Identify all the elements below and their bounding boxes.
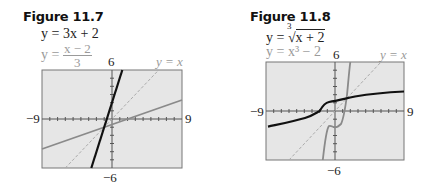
plot-figure-11-8 [0, 0, 434, 192]
